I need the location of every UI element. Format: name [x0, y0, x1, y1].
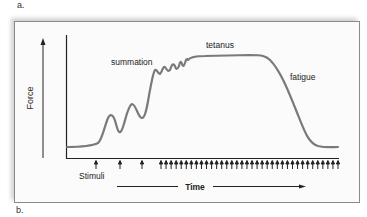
stimulus-arrow-icon — [185, 161, 188, 170]
stimulus-arrow-icon — [235, 161, 238, 170]
stimulus-arrow-icon — [225, 161, 228, 170]
stimulus-arrow-icon — [316, 161, 319, 170]
stimulus-arrow-icon — [271, 161, 274, 170]
stimulus-arrow-icon — [245, 161, 248, 170]
stimulus-arrow-icon — [306, 161, 309, 170]
tetanus-label: tetanus — [206, 40, 234, 50]
x-axis-label: Time — [185, 182, 205, 192]
stimulus-arrow-icon — [281, 161, 284, 170]
y-axis-label: Force — [25, 86, 35, 109]
stimulus-arrow-icon — [261, 161, 264, 170]
stimulus-arrow-icon — [311, 161, 314, 170]
stimulus-arrow-icon — [296, 161, 299, 170]
stimulus-arrow-icon — [140, 161, 143, 170]
panel-label-b: b. — [16, 205, 24, 215]
stimulus-arrow-icon — [336, 161, 339, 170]
stimulus-arrow-icon — [276, 161, 279, 170]
stimulus-arrow-icon — [326, 161, 329, 170]
stimulus-arrow-icon — [200, 161, 203, 170]
stimuli-label: Stimuli — [79, 171, 105, 181]
stimulus-arrow-icon — [266, 161, 269, 170]
axes — [66, 35, 339, 159]
force-arrow-icon — [41, 38, 46, 158]
force-time-diagram: Force summation tetanus fatigue Stimuli … — [0, 0, 367, 217]
stimulus-arrow-icon — [118, 161, 121, 170]
stimulus-arrows — [94, 161, 339, 170]
stimulus-arrow-icon — [159, 161, 162, 170]
time-arrow-icon — [117, 185, 306, 189]
summation-label: summation — [111, 57, 153, 67]
stimulus-arrow-icon — [190, 161, 193, 170]
stimulus-arrow-icon — [255, 161, 258, 170]
stimulus-arrow-icon — [210, 161, 213, 170]
force-curve — [67, 55, 338, 147]
stimulus-arrow-icon — [250, 161, 253, 170]
stimulus-arrow-icon — [205, 161, 208, 170]
stimulus-arrow-icon — [164, 161, 167, 170]
stimulus-arrow-icon — [215, 161, 218, 170]
stimulus-arrow-icon — [321, 161, 324, 170]
stimulus-arrow-icon — [94, 161, 97, 170]
stimulus-arrow-icon — [195, 161, 198, 170]
stimulus-arrow-icon — [220, 161, 223, 170]
stimulus-arrow-icon — [170, 161, 173, 170]
stimulus-arrow-icon — [291, 161, 294, 170]
stimulus-arrow-icon — [175, 161, 178, 170]
stimulus-arrow-icon — [240, 161, 243, 170]
stimulus-arrow-icon — [286, 161, 289, 170]
fatigue-label: fatigue — [290, 72, 316, 82]
stimulus-arrow-icon — [180, 161, 183, 170]
stimulus-arrow-icon — [230, 161, 233, 170]
stimulus-arrow-icon — [331, 161, 334, 170]
stimulus-arrow-icon — [301, 161, 304, 170]
